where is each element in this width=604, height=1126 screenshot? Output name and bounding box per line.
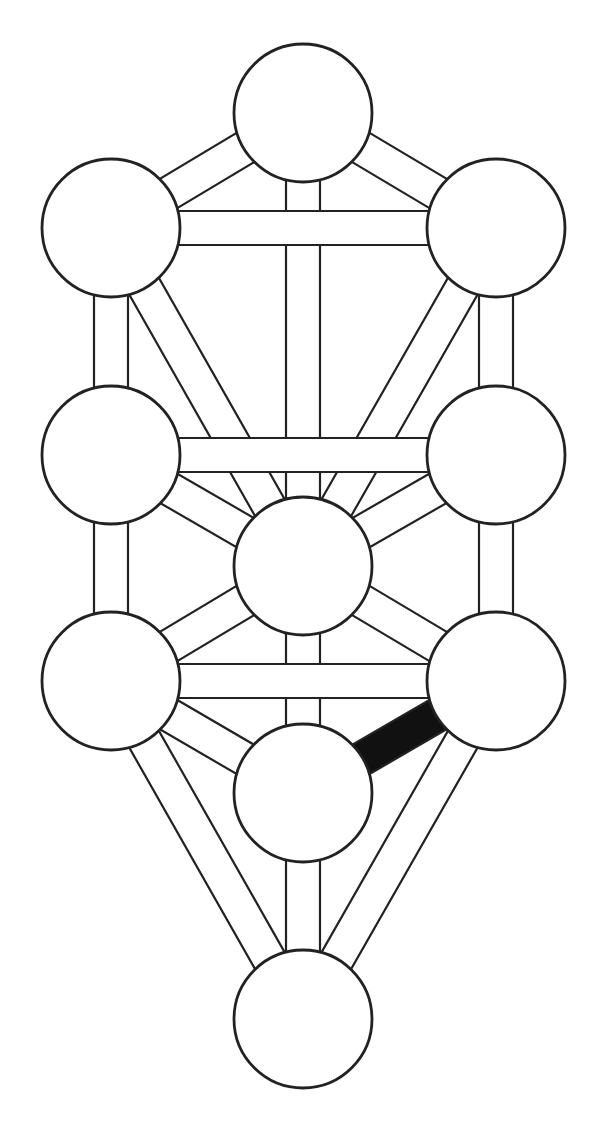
tree-of-life-diagram: KetherBinahChokmahGeburahChesedTiphareth… — [0, 0, 604, 1126]
sephirah-kether: Kether — [234, 44, 372, 182]
sephirah-malkuth: Malkuth — [234, 950, 372, 1088]
sephirah-netzach: Netzach — [427, 612, 565, 750]
sephirah-tiphareth: Tiphareth — [234, 497, 372, 635]
sephirah-chesed: Chesed — [427, 386, 565, 524]
sephirah-binah: Binah — [42, 159, 180, 297]
cropped-caption — [0, 1110, 604, 1126]
sephirah-hod: Hod — [42, 612, 180, 750]
sephirah-chokmah: Chokmah — [427, 159, 565, 297]
sephirah-yesod: Yesod — [234, 724, 372, 862]
sephirah-geburah: Geburah — [42, 386, 180, 524]
